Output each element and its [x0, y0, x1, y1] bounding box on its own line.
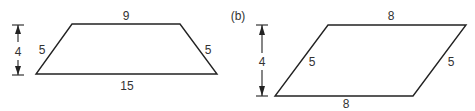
geometry-figure: 4 9 5 5 15 (b) 4 8 5 5 8 [0, 0, 475, 111]
top-length-label: 8 [388, 9, 395, 23]
trapezoid-outline [36, 24, 217, 74]
figure-b-parallelogram: (b) 4 8 5 5 8 [231, 9, 466, 111]
top-length-label: 9 [123, 9, 130, 23]
arrow-down-icon [259, 86, 265, 96]
height-label: 4 [259, 55, 266, 69]
bottom-length-label: 8 [343, 97, 350, 111]
arrow-down-icon [15, 66, 21, 75]
height-label: 4 [15, 45, 22, 59]
bottom-length-label: 15 [120, 79, 134, 93]
figure-a-trapezoid: 4 9 5 5 15 [12, 9, 217, 93]
right-side-label: 5 [205, 43, 212, 57]
parallelogram-outline [275, 25, 466, 96]
left-side-label: 5 [39, 43, 46, 57]
right-side-label: 5 [448, 55, 455, 69]
arrow-up-icon [15, 25, 21, 34]
left-side-label: 5 [309, 55, 316, 69]
figure-caption: (b) [231, 9, 246, 23]
arrow-up-icon [259, 25, 265, 35]
